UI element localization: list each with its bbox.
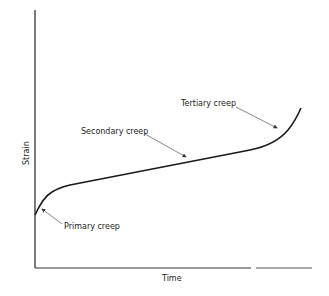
creep-curve [35, 108, 301, 215]
y-axis-label: Strain [22, 141, 31, 165]
secondary-creep-label: Secondary creep [81, 127, 148, 136]
secondary-creep-leader [145, 134, 186, 157]
tertiary-creep-label: Tertiary creep [180, 99, 236, 108]
tertiary-creep-leader [236, 107, 277, 128]
creep-curve-diagram: Strain Time Primary creep Secondary cree… [0, 0, 329, 296]
primary-creep-leader [42, 209, 62, 224]
x-axis-label: Time [161, 274, 182, 283]
primary-creep-label: Primary creep [64, 222, 120, 231]
